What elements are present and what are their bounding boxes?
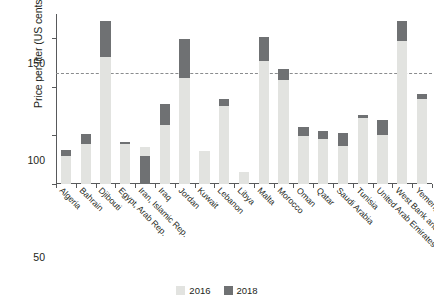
bar-segment-2016 <box>61 156 71 184</box>
bar-segment-2016 <box>298 136 308 184</box>
bar-group[interactable] <box>120 142 130 184</box>
bar-segment-2016 <box>377 135 387 184</box>
bar-group[interactable] <box>298 127 308 184</box>
x-tick <box>432 184 433 188</box>
bar-group[interactable] <box>160 104 170 184</box>
x-axis-label: Malta <box>256 186 277 207</box>
bar-group[interactable] <box>278 69 288 184</box>
bar-group[interactable] <box>199 151 209 184</box>
chart-container: Price per liter (US cents) 050100150 Alg… <box>0 0 434 307</box>
bar-segment-2016 <box>259 61 269 184</box>
y-axis-line <box>56 14 57 184</box>
legend-swatch <box>224 286 233 295</box>
bar-segment-2016 <box>81 144 91 184</box>
y-tick-label: 50 <box>33 252 45 263</box>
bar-segment-2016 <box>318 139 328 184</box>
legend-item[interactable]: 2018 <box>224 286 258 296</box>
reference-line <box>56 73 432 74</box>
x-axis-labels: AlgeriaBahrainDjiboutiEgypt, Arab Rep.Ir… <box>56 186 432 278</box>
bar-group[interactable] <box>417 94 427 184</box>
bar-segment-2016 <box>278 80 288 184</box>
y-tick: 150 <box>52 38 56 39</box>
bar-group[interactable] <box>219 99 229 184</box>
bar-group[interactable] <box>318 131 328 184</box>
bar-group[interactable] <box>259 37 269 184</box>
bar-segment-2016 <box>160 125 170 184</box>
legend-item[interactable]: 2016 <box>176 286 210 296</box>
bar-segment-2016 <box>179 78 189 184</box>
bar-segment-2016 <box>397 41 407 184</box>
bar-group[interactable] <box>61 150 71 184</box>
legend-label: 2016 <box>189 286 210 296</box>
bar-group[interactable] <box>239 172 249 184</box>
chart-legend: 20162018 <box>0 286 434 296</box>
bar-segment-2016 <box>358 118 368 184</box>
bar-group[interactable] <box>338 133 348 184</box>
y-tick: 50 <box>52 135 56 136</box>
bar-segment-2016 <box>120 144 130 184</box>
y-tick-label: 150 <box>27 57 45 68</box>
bar-group[interactable] <box>358 115 368 184</box>
bar-group[interactable] <box>140 147 150 184</box>
y-tick-label: 100 <box>27 154 45 165</box>
bar-group[interactable] <box>81 134 91 184</box>
plot-area: 050100150 <box>56 14 432 184</box>
bar-segment-2016 <box>417 99 427 184</box>
legend-label: 2018 <box>237 286 258 296</box>
bar-segment-2016 <box>239 172 249 184</box>
x-axis-label: Qatar <box>315 186 336 207</box>
bar-segment-2016 <box>338 146 348 184</box>
legend-swatch <box>176 286 185 295</box>
bar-group[interactable] <box>377 120 387 184</box>
bar-segment-2016 <box>199 151 209 184</box>
bar-group[interactable] <box>397 21 407 184</box>
y-tick: 100 <box>52 87 56 88</box>
bar-group[interactable] <box>100 21 110 184</box>
bar-segment-2018 <box>140 156 150 184</box>
bar-group[interactable] <box>179 39 189 184</box>
bar-segment-2016 <box>100 57 110 184</box>
bar-segment-2016 <box>219 106 229 184</box>
